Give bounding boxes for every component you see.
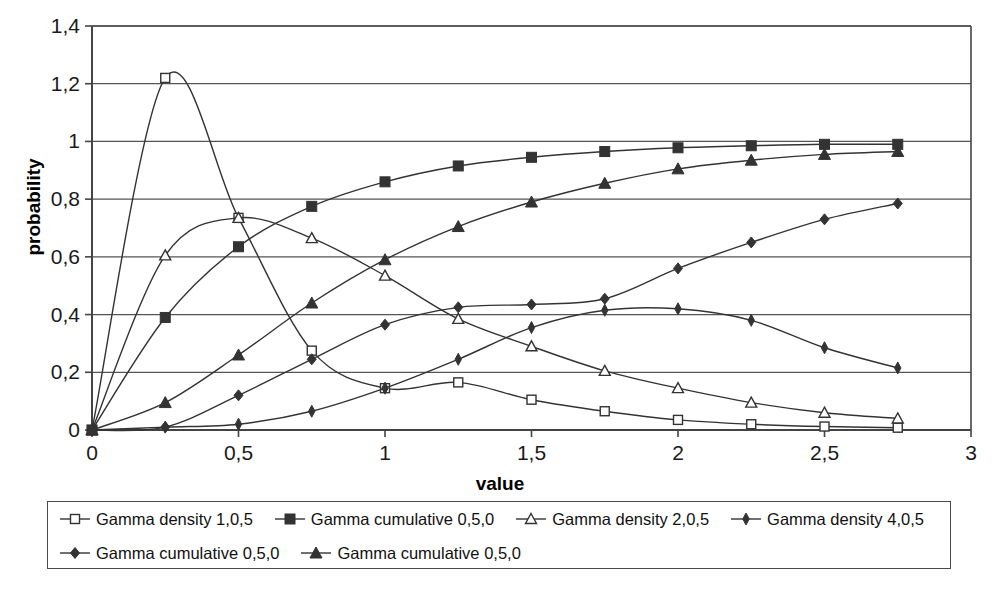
x-tick-label: 0: [62, 442, 122, 463]
chart-page: probability value 00,20,40,60,811,21,400…: [0, 0, 1000, 595]
marker-open-square: [454, 378, 463, 387]
marker-open-square: [161, 73, 170, 82]
marker-filled-square: [600, 147, 610, 157]
y-tick-label: 1,4: [20, 15, 80, 36]
legend-marker-filled-square: [275, 512, 305, 526]
marker-filled-square: [285, 514, 295, 524]
marker-open-triangle: [526, 341, 537, 351]
legend-marker-filled-diamond: [60, 546, 90, 560]
marker-filled-diamond-small: [309, 405, 315, 417]
y-tick-label: 0,6: [20, 246, 80, 267]
series-line: [92, 218, 898, 430]
series-line: [92, 152, 898, 430]
legend-item[interactable]: Gamma density 2,0,5: [516, 511, 709, 528]
series-line: [92, 72, 898, 430]
marker-filled-diamond-small: [528, 322, 534, 334]
marker-filled-diamond: [71, 548, 80, 559]
marker-filled-square: [673, 143, 683, 153]
x-tick-label: 1: [355, 442, 415, 463]
legend-marker-filled-triangle: [301, 546, 331, 560]
legend-item-label: Gamma cumulative 0,5,0: [96, 545, 279, 562]
marker-filled-diamond-small: [235, 418, 241, 430]
marker-filled-diamond-small: [675, 303, 681, 315]
marker-open-triangle: [160, 250, 171, 260]
marker-filled-diamond: [234, 390, 243, 401]
x-tick-label: 3: [941, 442, 1000, 463]
marker-filled-diamond: [381, 319, 390, 330]
x-tick-label: 0,5: [209, 442, 269, 463]
marker-open-square: [527, 395, 536, 404]
series-line: [92, 144, 898, 430]
marker-open-square: [893, 423, 902, 432]
marker-filled-square: [746, 141, 756, 151]
series-line: [92, 308, 898, 430]
series-0: [88, 72, 903, 435]
legend-item[interactable]: Gamma cumulative 0,5,0: [275, 511, 494, 528]
legend-item-label: Gamma density 1,0,5: [96, 511, 253, 528]
series-3: [89, 303, 901, 436]
marker-filled-diamond: [454, 302, 463, 313]
marker-filled-diamond: [747, 237, 756, 248]
series-4: [88, 198, 903, 436]
marker-filled-triangle: [233, 349, 245, 360]
x-tick-label: 2: [648, 442, 708, 463]
legend-item-label: Gamma cumulative 0,5,0: [337, 545, 520, 562]
legend-item-label: Gamma cumulative 0,5,0: [311, 511, 494, 528]
marker-filled-square: [380, 177, 390, 187]
marker-filled-square: [234, 242, 244, 252]
marker-filled-square: [307, 201, 317, 211]
y-tick-label: 0,2: [20, 361, 80, 382]
marker-filled-diamond: [674, 263, 683, 274]
marker-open-square: [71, 515, 80, 524]
chart-legend: Gamma density 1,0,5Gamma cumulative 0,5,…: [47, 501, 951, 569]
x-axis-title: value: [0, 473, 1000, 495]
marker-open-square: [747, 420, 756, 429]
marker-filled-diamond: [600, 293, 609, 304]
series-2: [87, 212, 904, 434]
y-tick-label: 0,8: [20, 188, 80, 209]
marker-open-triangle: [380, 270, 391, 280]
marker-filled-square: [453, 161, 463, 171]
legend-item-label: Gamma density 4,0,5: [767, 511, 924, 528]
marker-open-triangle: [306, 233, 317, 243]
marker-open-square: [600, 407, 609, 416]
legend-item[interactable]: Gamma cumulative 0,5,0: [60, 545, 279, 562]
y-tick-label: 0: [20, 419, 80, 440]
legend-marker-filled-diamond-small: [731, 512, 761, 526]
legend-row-1: Gamma density 1,0,5Gamma cumulative 0,5,…: [48, 502, 950, 536]
legend-item-label: Gamma density 2,0,5: [552, 511, 709, 528]
x-tick-label: 2,5: [795, 442, 855, 463]
marker-filled-square: [160, 312, 170, 322]
marker-filled-triangle: [379, 254, 391, 265]
marker-filled-square: [527, 152, 537, 162]
marker-filled-diamond: [527, 299, 536, 310]
marker-filled-diamond: [820, 214, 829, 225]
legend-marker-open-square: [60, 512, 90, 526]
marker-filled-diamond-small: [748, 314, 754, 326]
marker-filled-diamond-small: [455, 353, 461, 365]
series-5: [86, 146, 904, 435]
marker-filled-triangle: [306, 297, 318, 308]
legend-item[interactable]: Gamma cumulative 0,5,0: [301, 545, 520, 562]
chart-canvas: [0, 0, 1000, 500]
marker-filled-diamond-small: [821, 342, 827, 354]
legend-row-2: Gamma cumulative 0,5,0Gamma cumulative 0…: [48, 536, 950, 570]
marker-open-square: [820, 422, 829, 431]
series-line: [92, 203, 898, 430]
y-tick-label: 1,2: [20, 73, 80, 94]
x-tick-label: 1,5: [502, 442, 562, 463]
legend-item[interactable]: Gamma density 1,0,5: [60, 511, 253, 528]
legend-marker-open-triangle: [516, 512, 546, 526]
legend-item[interactable]: Gamma density 4,0,5: [731, 511, 924, 528]
y-tick-label: 1: [20, 130, 80, 151]
marker-filled-triangle: [159, 397, 171, 408]
y-tick-label: 0,4: [20, 304, 80, 325]
chart-plot-area: probability value 00,20,40,60,811,21,400…: [0, 0, 1000, 500]
marker-open-square: [674, 415, 683, 424]
marker-filled-triangle: [452, 221, 464, 232]
marker-filled-diamond-small: [743, 513, 749, 525]
